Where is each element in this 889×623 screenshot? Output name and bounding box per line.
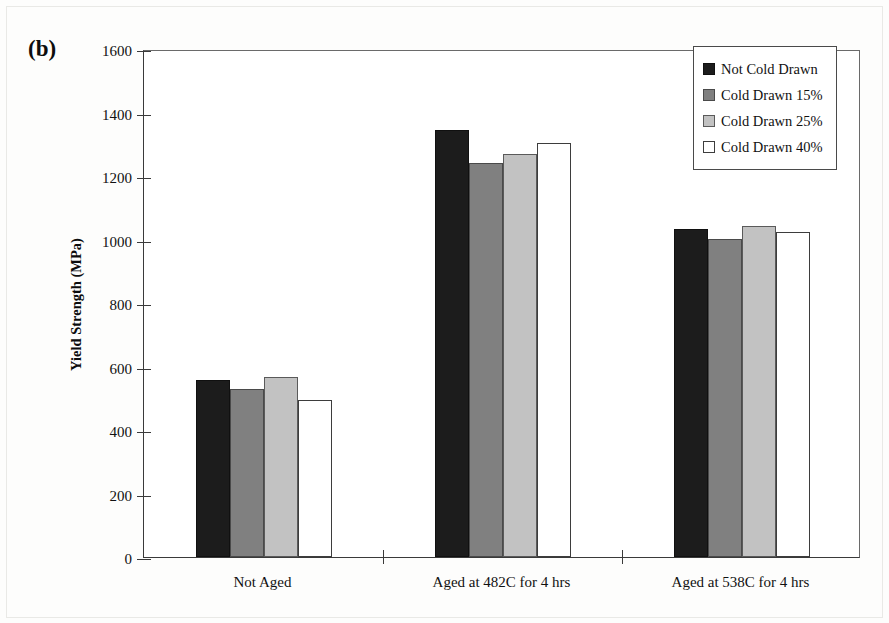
y-tick-mark <box>137 559 151 560</box>
legend-label: Cold Drawn 15% <box>721 87 823 104</box>
legend-swatch-icon <box>703 89 715 101</box>
panel-label: (b) <box>28 36 56 62</box>
bar <box>708 239 742 557</box>
y-tick-mark <box>137 242 151 243</box>
y-tick-mark <box>137 496 151 497</box>
y-tick-label: 1000 <box>102 233 132 250</box>
figure-canvas: (b) Yield Strength (MPa) 020040060080010… <box>0 0 889 623</box>
y-tick-label: 1400 <box>102 106 132 123</box>
x-axis-label: Aged at 538C for 4 hrs <box>672 574 810 591</box>
bar <box>230 389 264 557</box>
bar <box>776 232 810 557</box>
y-tick-label: 200 <box>110 487 133 504</box>
y-tick-label: 400 <box>110 424 133 441</box>
y-tick-label: 0 <box>125 551 133 568</box>
bar <box>674 229 708 557</box>
x-axis-label: Not Aged <box>234 574 292 591</box>
chart-legend: Not Cold DrawnCold Drawn 15%Cold Drawn 2… <box>693 46 837 170</box>
bar <box>742 226 776 557</box>
bar <box>435 130 469 557</box>
bar <box>196 380 230 557</box>
bar <box>503 154 537 557</box>
y-tick-mark <box>137 305 151 306</box>
y-tick-label: 600 <box>110 360 133 377</box>
legend-swatch-icon <box>703 63 715 75</box>
y-tick-mark <box>137 51 151 52</box>
legend-item: Cold Drawn 40% <box>703 134 823 160</box>
y-tick-mark <box>137 432 151 433</box>
bar <box>298 400 332 557</box>
y-tick-label: 1600 <box>102 43 132 60</box>
x-axis-label: Aged at 482C for 4 hrs <box>433 574 571 591</box>
y-tick-mark <box>137 369 151 370</box>
x-tick-mark <box>383 550 384 564</box>
y-tick-label: 1200 <box>102 170 132 187</box>
legend-label: Not Cold Drawn <box>721 61 818 78</box>
x-tick-mark <box>622 550 623 564</box>
bar <box>469 163 503 557</box>
legend-swatch-icon <box>703 141 715 153</box>
legend-item: Cold Drawn 25% <box>703 108 823 134</box>
legend-label: Cold Drawn 40% <box>721 139 823 156</box>
y-tick-mark <box>137 115 151 116</box>
legend-label: Cold Drawn 25% <box>721 113 823 130</box>
y-tick-mark <box>137 178 151 179</box>
legend-item: Cold Drawn 15% <box>703 82 823 108</box>
legend-item: Not Cold Drawn <box>703 56 823 82</box>
bar <box>264 377 298 557</box>
bar <box>537 143 571 557</box>
y-axis-title: Yield Strength (MPa) <box>68 185 85 425</box>
y-tick-label: 800 <box>110 297 133 314</box>
legend-swatch-icon <box>703 115 715 127</box>
